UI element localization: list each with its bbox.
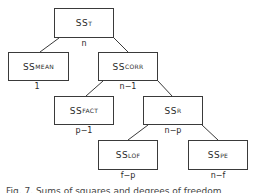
node-ss-lof: SSLOF [98,140,158,170]
df-label-corr: n−1 [98,82,158,91]
df-label-mean: 1 [7,82,67,91]
node-ss-total: SST [54,8,114,38]
node-subscript: CORR [125,63,143,70]
figure-caption: Fig. 7. Sums of squares and degrees of f… [6,186,222,193]
node-ss-mean: SSMEAN [8,52,69,81]
node-ss-fact: SSFACT [54,96,114,125]
node-subscript: MEAN [35,63,54,70]
node-subscript: T [88,20,92,27]
node-ss-residual: SSR [143,96,203,125]
node-label: SS [116,150,128,160]
node-subscript: LOF [128,152,140,159]
node-label: SS [113,62,125,72]
df-label-lof: f−p [98,171,158,180]
df-label-total: n [54,39,114,48]
edge-r-pe [202,125,218,140]
edge-t-corr [114,38,128,52]
node-label: SS [208,150,220,160]
node-subscript: FACT [82,107,98,114]
node-ss-pe: SSPE [188,140,248,170]
node-subscript: PE [220,152,228,159]
node-label: SS [23,62,35,72]
node-label: SS [165,106,177,116]
df-label-pe: n−f [188,171,248,180]
node-subscript: R [177,107,181,114]
node-ss-corr: SSCORR [98,52,158,81]
df-label-residual: n−p [143,126,203,135]
edge-corr-r [158,81,172,96]
df-label-fact: p−1 [54,126,114,135]
node-label: SS [76,18,88,28]
node-label: SS [70,106,82,116]
